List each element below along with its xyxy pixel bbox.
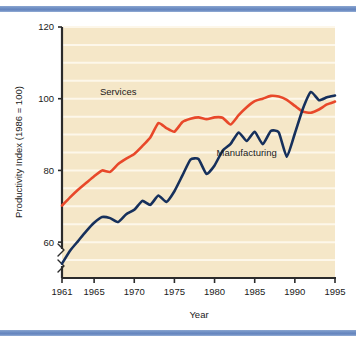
y-tick-label: 80 <box>43 165 54 176</box>
x-tick-label: 1980 <box>204 286 225 297</box>
x-tick-label: 1975 <box>164 286 185 297</box>
series-label-services: Services <box>100 86 137 97</box>
y-axis <box>58 27 64 278</box>
productivity-index-line-chart: 6080100120 19611965197019751980198519901… <box>0 0 356 342</box>
y-tick-label: 120 <box>38 21 54 32</box>
x-tick-label: 1970 <box>124 286 145 297</box>
x-tick-label: 1990 <box>284 286 305 297</box>
y-tick-label: 60 <box>43 237 54 248</box>
x-tick-label: 1965 <box>84 286 105 297</box>
x-tick-label: 1985 <box>244 286 265 297</box>
x-axis-title: Year <box>189 309 208 320</box>
x-tick-label: 1961 <box>51 286 72 297</box>
x-tick-group: 19611965197019751980198519901995 <box>51 278 345 297</box>
y-axis-title: Productivity Index (1986 = 100) <box>13 86 24 218</box>
series-label-manufacturing: Manufacturing <box>217 147 277 158</box>
y-tick-label: 100 <box>38 93 54 104</box>
x-tick-label: 1995 <box>324 286 345 297</box>
figure-canvas: 6080100120 19611965197019751980198519901… <box>0 0 356 342</box>
y-tick-group: 6080100120 <box>38 21 62 247</box>
